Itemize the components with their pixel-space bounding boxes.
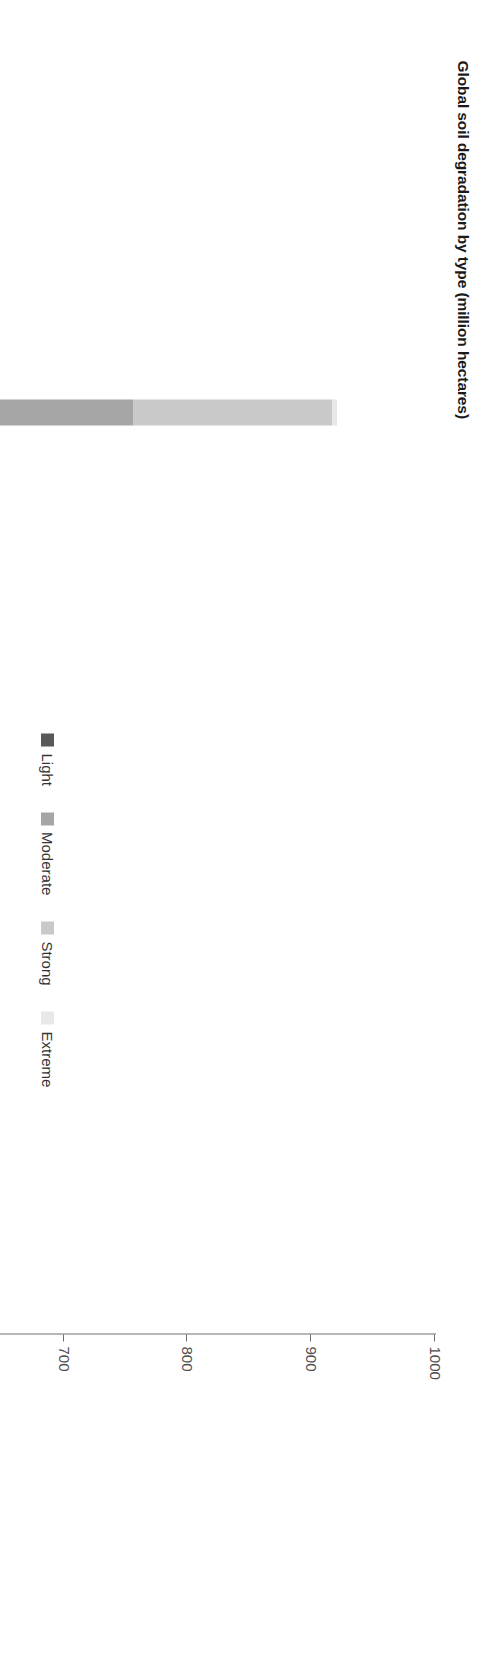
legend-label: Strong — [39, 941, 56, 985]
legend-swatch-icon — [41, 1011, 54, 1024]
stacked-bar-chart: Global soil degradation by type (million… — [0, 0, 488, 1667]
legend-label: Extreme — [39, 1031, 56, 1087]
legend-item[interactable]: Strong — [39, 921, 56, 985]
bar-segment — [133, 399, 332, 425]
legend-label: Light — [39, 753, 56, 786]
legend-swatch-icon — [41, 921, 54, 934]
rotated-figure-wrapper: Global soil degradation by type (million… — [0, 0, 488, 1667]
legend-label: Moderate — [39, 832, 56, 895]
value-axis-tick — [310, 1334, 311, 1341]
value-axis-tick-label: 800 — [179, 1346, 196, 1371]
legend-item[interactable]: Moderate — [39, 812, 56, 895]
bar-segment — [332, 399, 337, 425]
value-axis-tick — [63, 1334, 64, 1341]
legend-item[interactable]: Extreme — [39, 1011, 56, 1087]
chart-legend: LightModerateStrongExtreme — [39, 733, 56, 1087]
value-axis-tick-label: 700 — [55, 1346, 72, 1371]
value-axis-tick-label: 900 — [303, 1346, 320, 1371]
value-axis-tick — [186, 1334, 187, 1341]
value-axis-tick-label: 1000 — [427, 1346, 444, 1379]
legend-item[interactable]: Light — [39, 733, 56, 786]
legend-swatch-icon — [41, 733, 54, 746]
bar-segment — [0, 399, 133, 425]
legend-swatch-icon — [41, 812, 54, 825]
chart-title: Global soil degradation by type (million… — [454, 60, 472, 418]
value-axis-tick — [434, 1334, 435, 1341]
plot-area — [0, 373, 436, 1333]
value-axis-line — [0, 1333, 436, 1334]
